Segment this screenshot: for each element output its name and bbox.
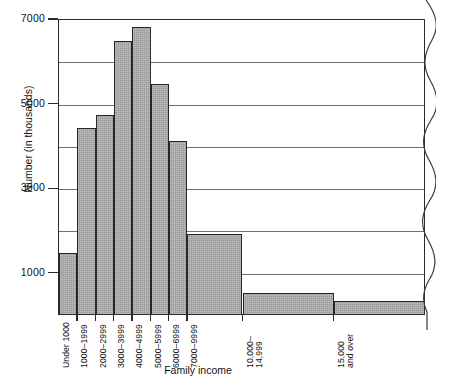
histogram-bar	[187, 234, 242, 314]
histogram-bar	[334, 301, 425, 314]
x-axis-tick-label: 1000–1999	[80, 324, 89, 368]
x-axis-title-text: Family income	[164, 364, 232, 376]
y-axis-tick	[48, 18, 58, 19]
x-axis-tick-labels: Under 10001000–19992000–29993000–3999400…	[58, 318, 425, 370]
histogram-bar	[59, 253, 77, 314]
x-axis-tick-label: 7000–9999	[190, 324, 199, 368]
histogram-bar	[77, 128, 95, 314]
y-axis-tick-label: 5000	[21, 97, 45, 109]
x-axis-tick-label: 5000–5999	[154, 324, 163, 368]
histogram-bar	[243, 293, 335, 314]
x-axis-tick-label: 15,000and over	[337, 334, 356, 368]
y-axis-tick-label: 7000	[21, 12, 45, 24]
x-axis-tick-label: 2000–2999	[99, 324, 108, 368]
y-axis-tick-label: 3000	[21, 181, 45, 193]
histogram-bar	[114, 41, 132, 314]
histogram-bar	[151, 84, 169, 315]
histogram-bars	[59, 20, 424, 314]
histogram-bar	[132, 27, 150, 315]
histogram-figure: Number (in thousands) 1000300050007000 U…	[0, 0, 452, 387]
y-axis-tick-labels: 1000300050007000	[0, 19, 45, 315]
y-axis-tick	[48, 188, 58, 189]
x-axis-tick-label: Under 1000	[62, 322, 71, 368]
x-axis-title: Family income	[0, 364, 452, 376]
x-axis-tick-label: 3000–3999	[117, 324, 126, 368]
y-axis-tick	[48, 103, 58, 104]
y-axis-tick	[48, 272, 58, 273]
x-axis-tick-label: 6000–6999	[172, 324, 181, 368]
plot-area	[58, 19, 425, 315]
y-axis-tick-label: 1000	[21, 266, 45, 278]
page-edge-mask	[436, 0, 452, 387]
y-axis-ticks	[48, 19, 58, 315]
histogram-bar	[169, 141, 187, 314]
histogram-bar	[96, 115, 114, 314]
x-axis-tick-label: 4000–4999	[135, 324, 144, 368]
